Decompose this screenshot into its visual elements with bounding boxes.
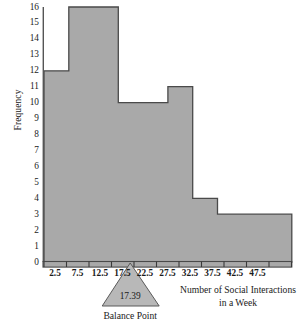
histogram-figure: Frequency 0 1 2 3 4 5 6 7 8 9 10 11 12 1… [0, 0, 307, 330]
y-tick-label-6: 6 [23, 162, 39, 171]
balance-point-caption: Balance Point [75, 311, 185, 321]
y-tick-label-4: 4 [23, 194, 39, 203]
y-tick-label-13: 13 [23, 50, 39, 59]
x-axis-baseline [43, 262, 292, 268]
histogram-bars [44, 7, 292, 262]
x-axis-title: Number of Social Interactions in a Week [170, 283, 306, 309]
y-tick-label-16: 16 [23, 3, 39, 12]
y-axis-title: Frequency [13, 60, 23, 160]
balance-point-value: 17.39 [108, 292, 152, 301]
bar-series-outline [44, 7, 292, 262]
y-tick-label-15: 15 [23, 18, 39, 27]
y-tick-label-12: 12 [23, 66, 39, 75]
y-tick-label-7: 7 [23, 146, 39, 155]
y-tick-label-0: 0 [23, 258, 39, 267]
y-tick-label-3: 3 [23, 210, 39, 219]
x-tick-label-47-5: 47.5 [243, 269, 273, 278]
y-tick-label-1: 1 [23, 242, 39, 251]
y-tick-label-2: 2 [23, 226, 39, 235]
y-tick-label-10: 10 [23, 98, 39, 107]
y-tick-label-9: 9 [23, 114, 39, 123]
y-tick-label-5: 5 [23, 178, 39, 187]
y-tick-label-14: 14 [23, 34, 39, 43]
x-axis-title-line2: in a Week [170, 296, 306, 309]
y-tick-label-11: 11 [23, 82, 39, 91]
x-axis-title-line1: Number of Social Interactions [180, 284, 296, 295]
y-tick-label-8: 8 [23, 130, 39, 139]
histogram-plot [0, 0, 307, 330]
